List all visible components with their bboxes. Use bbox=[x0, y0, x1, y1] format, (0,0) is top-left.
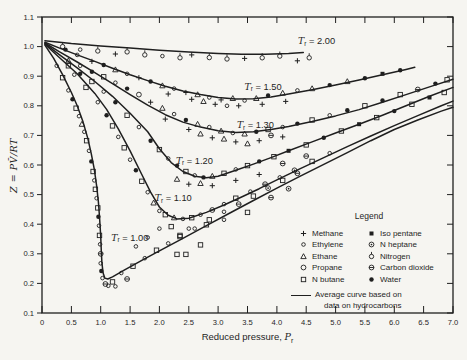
legend-item-label: Ethylene bbox=[312, 239, 343, 251]
point-plus bbox=[295, 58, 300, 63]
point-circle-hbar bbox=[269, 133, 274, 138]
point-circle bbox=[137, 92, 142, 97]
point-plus bbox=[148, 100, 153, 105]
y-tick-label: 0.2 bbox=[23, 279, 34, 288]
y-tick-label: 0.5 bbox=[23, 190, 34, 199]
point-circle-small bbox=[73, 73, 77, 77]
point-circle-filled bbox=[125, 86, 129, 90]
legend-item-methane: Methane bbox=[297, 228, 365, 240]
y-tick-label: 1.1 bbox=[23, 13, 34, 22]
legend-item-ethane: Ethane bbox=[297, 251, 365, 263]
point-circle-filled bbox=[104, 113, 108, 117]
legend-title: Legend bbox=[283, 211, 455, 223]
x-tick-label: 2.5 bbox=[184, 318, 195, 327]
point-circle-small bbox=[96, 100, 100, 104]
point-plus bbox=[166, 91, 171, 96]
point-circle-small bbox=[193, 227, 197, 231]
circle-dot-icon bbox=[365, 239, 378, 250]
x-tick-label: 1.0 bbox=[95, 318, 106, 327]
curve-label-tr-2.00: Tr = 2.00 bbox=[298, 35, 335, 47]
legend-box: Legend MethaneEthyleneEthanePropaneN but… bbox=[283, 211, 455, 311]
point-circle-filled bbox=[369, 277, 373, 281]
point-triangle bbox=[245, 141, 250, 146]
square-icon bbox=[297, 274, 310, 285]
y-tick-label: 0.3 bbox=[23, 249, 34, 258]
circle-small-icon bbox=[297, 239, 310, 250]
legend-item-label: Ethane bbox=[312, 251, 337, 263]
y-tick-label: 0.7 bbox=[23, 131, 34, 140]
point-circle-tick bbox=[307, 53, 311, 60]
y-tick-label: 0.6 bbox=[23, 161, 34, 170]
legend-item-label: N butane bbox=[312, 274, 344, 286]
point-circle-small bbox=[302, 243, 306, 247]
point-triangle bbox=[201, 99, 206, 104]
point-circle-hbar bbox=[125, 277, 130, 282]
x-axis-label-text: Reduced pressure, bbox=[202, 331, 285, 342]
point-square bbox=[198, 243, 202, 247]
point-square bbox=[245, 210, 249, 214]
point-square bbox=[110, 124, 114, 128]
point-circle-small bbox=[117, 135, 121, 139]
legend-column-right: Iso pentaneN heptaneNitrogenCarbon dioxi… bbox=[365, 228, 434, 286]
point-square bbox=[184, 252, 188, 256]
x-tick-label: 0 bbox=[40, 318, 44, 327]
legend-item-water: Water bbox=[365, 274, 434, 286]
point-circle-tick bbox=[178, 53, 182, 60]
point-circle-small bbox=[225, 104, 229, 108]
point-triangle bbox=[160, 105, 165, 110]
circle-hbar-icon bbox=[365, 262, 378, 273]
point-square bbox=[169, 224, 173, 228]
point-plus bbox=[113, 51, 118, 56]
plus-icon bbox=[297, 228, 310, 239]
point-plus bbox=[186, 127, 191, 132]
legend-item-label: Methane bbox=[312, 228, 343, 240]
average-note-line2: data on hydrocarbons bbox=[315, 301, 401, 310]
point-square bbox=[110, 280, 114, 284]
x-tick-label: 6.5 bbox=[418, 318, 429, 327]
point-plus bbox=[163, 117, 168, 122]
point-triangle bbox=[221, 136, 226, 141]
point-plus bbox=[189, 97, 194, 102]
point-circle bbox=[301, 265, 306, 270]
point-circle-dot bbox=[369, 242, 374, 247]
legend-column-left: MethaneEthyleneEthanePropaneN butane bbox=[297, 228, 365, 286]
legend-item-n-heptane: N heptane bbox=[365, 239, 434, 251]
point-circle-tick bbox=[143, 50, 147, 57]
y-tick-label: 1.0 bbox=[23, 42, 34, 51]
curve-label-tr-1.30: Tr = 1.30 bbox=[237, 119, 274, 131]
curve-label-tr-1.20: Tr = 1.20 bbox=[176, 155, 213, 167]
point-circle-filled bbox=[134, 168, 138, 172]
point-circle-dot bbox=[286, 186, 291, 191]
point-plus bbox=[280, 134, 285, 139]
x-axis-symbol-sub: r bbox=[291, 337, 293, 344]
curve-label-tr-1.50: Tr = 1.50 bbox=[245, 81, 282, 93]
point-plus bbox=[210, 135, 215, 140]
x-tick-label: 5.5 bbox=[360, 318, 371, 327]
x-axis-label: Reduced pressure, Pr bbox=[42, 331, 453, 344]
point-plus bbox=[242, 56, 247, 61]
legend-item-label: Water bbox=[380, 274, 401, 286]
point-square bbox=[175, 252, 179, 256]
point-circle-small bbox=[222, 218, 226, 222]
y-tick-label: 0.8 bbox=[23, 101, 34, 110]
point-circle-hbar bbox=[304, 154, 309, 159]
curve-label-tr-1.10: Tr = 1.10 bbox=[155, 192, 192, 204]
curve-label-tr-1.00: Tr = 1.00 bbox=[111, 232, 148, 244]
point-circle-small bbox=[172, 112, 176, 116]
y-tick-label: 0.4 bbox=[23, 220, 34, 229]
point-triangle bbox=[198, 181, 203, 186]
point-plus bbox=[189, 52, 194, 57]
avg-curve-tr-1.20 bbox=[45, 44, 453, 178]
x-tick-label: 1.5 bbox=[125, 318, 136, 327]
average-curve-swatch bbox=[291, 295, 311, 296]
point-plus bbox=[260, 102, 265, 107]
point-plus bbox=[233, 139, 238, 144]
point-circle-small bbox=[222, 210, 226, 214]
x-tick-label: 3.0 bbox=[213, 318, 224, 327]
legend-item-nitrogen: Nitrogen bbox=[365, 251, 434, 263]
point-circle-small bbox=[161, 54, 165, 58]
point-circle-small bbox=[158, 209, 162, 213]
legend-average-note: Average curve based ondata on hydrocarbo… bbox=[283, 290, 455, 311]
avg-curve-tr-2.00 bbox=[45, 41, 303, 55]
point-circle-dot bbox=[266, 186, 271, 191]
